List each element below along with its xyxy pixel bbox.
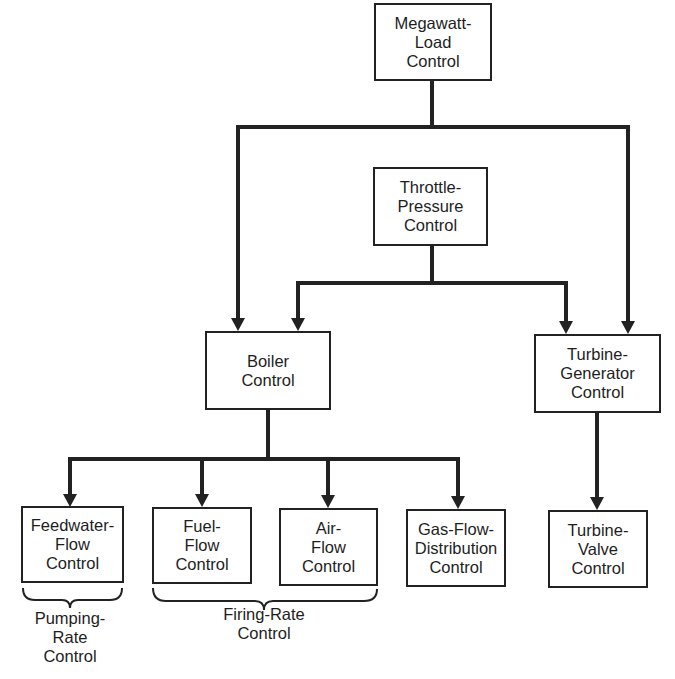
node-label: Control — [175, 555, 228, 574]
megawatt-load-control-box: Megawatt- Load Control — [374, 3, 492, 81]
node-label: Control — [571, 559, 624, 578]
gas-flow-distribution-control-box: Gas-Flow- Distribution Control — [406, 509, 506, 587]
group-label-line: Control — [204, 624, 324, 643]
firing-rate-control-label: Firing-Rate Control — [204, 605, 324, 643]
node-label: Control — [404, 216, 457, 235]
node-label: Distribution — [415, 539, 498, 558]
pumping-rate-control-label: Pumping- Rate Control — [10, 609, 130, 666]
pumping-rate-bracket-icon — [23, 588, 122, 608]
node-label: Load — [415, 33, 452, 52]
air-flow-control-box: Air- Flow Control — [279, 508, 378, 586]
node-label: Control — [302, 557, 355, 576]
node-label: Control — [46, 554, 99, 573]
node-label: Control — [429, 558, 482, 577]
arrowhead-icon — [231, 318, 245, 331]
node-label: Generator — [560, 364, 634, 383]
boiler-control-box: Boiler Control — [205, 331, 331, 410]
control-hierarchy-diagram: Megawatt- Load Control Throttle- Pressur… — [0, 0, 675, 679]
group-label-line: Firing-Rate — [204, 605, 324, 624]
node-label: Flow — [55, 535, 90, 554]
node-label: Air- — [316, 519, 342, 538]
turbine-generator-control-box: Turbine- Generator Control — [534, 334, 661, 413]
arrowhead-icon — [195, 494, 209, 507]
arrowhead-icon — [590, 497, 604, 510]
node-label: Fuel- — [183, 517, 221, 536]
turbine-valve-control-box: Turbine- Valve Control — [548, 510, 648, 588]
arrowhead-icon — [291, 318, 305, 331]
fuel-flow-control-box: Fuel- Flow Control — [152, 507, 252, 584]
node-label: Flow — [185, 536, 220, 555]
node-label: Boiler — [247, 352, 289, 371]
node-label: Gas-Flow- — [418, 520, 494, 539]
node-label: Valve — [578, 540, 618, 559]
throttle-pressure-control-box: Throttle- Pressure Control — [373, 167, 488, 246]
node-label: Control — [571, 383, 624, 402]
node-label: Pressure — [397, 197, 463, 216]
feedwater-flow-control-box: Feedwater- Flow Control — [21, 506, 124, 583]
node-label: Feedwater- — [31, 516, 114, 535]
arrowhead-icon — [559, 321, 573, 334]
node-label: Megawatt- — [394, 14, 471, 33]
node-label: Control — [406, 52, 459, 71]
arrowhead-icon — [321, 495, 335, 508]
node-label: Turbine- — [568, 521, 629, 540]
group-label-line: Rate — [10, 628, 130, 647]
node-label: Throttle- — [400, 178, 461, 197]
arrowhead-icon — [621, 321, 635, 334]
arrowhead-icon — [451, 496, 465, 509]
group-label-line: Control — [10, 647, 130, 666]
group-label-line: Pumping- — [10, 609, 130, 628]
node-label: Turbine- — [567, 345, 628, 364]
node-label: Flow — [311, 538, 346, 557]
node-label: Control — [241, 371, 294, 390]
